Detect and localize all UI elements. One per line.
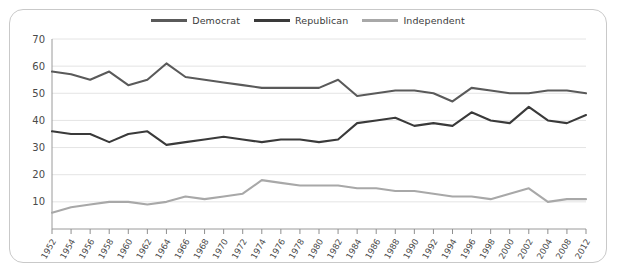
x-tick-label: 1954 xyxy=(58,237,77,261)
x-tick-label: 1990 xyxy=(401,237,420,261)
gridlines xyxy=(52,39,586,202)
x-tick-label: 1952 xyxy=(39,237,58,261)
x-axis-tick-labels: 1952195419561958196019621964196619681970… xyxy=(39,237,592,261)
x-tick-label: 2000 xyxy=(496,237,515,261)
series-line-republican xyxy=(52,107,586,145)
y-tick-label: 60 xyxy=(32,61,45,72)
x-tick-label: 1984 xyxy=(344,237,363,261)
x-tick-label: 1994 xyxy=(439,237,458,261)
x-tick-label: 1978 xyxy=(287,237,306,261)
plot-area: 10203040506070 1952195419561958196019621… xyxy=(10,10,608,264)
x-tick-label: 1974 xyxy=(249,237,268,261)
y-tick-label: 30 xyxy=(32,142,45,153)
chart-svg: 10203040506070 1952195419561958196019621… xyxy=(10,10,608,264)
x-tick-label: 1982 xyxy=(325,237,344,261)
x-tick-label: 1956 xyxy=(77,237,96,261)
y-tick-label: 70 xyxy=(32,34,45,45)
x-axis-tickmarks xyxy=(52,229,586,234)
x-tick-label: 1970 xyxy=(210,237,229,261)
x-tick-label: 2008 xyxy=(554,237,573,261)
series-line-democrat xyxy=(52,63,586,101)
y-tick-label: 10 xyxy=(32,196,45,207)
x-tick-label: 1996 xyxy=(458,237,477,261)
x-tick-label: 1960 xyxy=(115,237,134,261)
x-tick-label: 1976 xyxy=(268,237,287,261)
x-tick-label: 1988 xyxy=(382,237,401,261)
y-tick-label: 40 xyxy=(32,115,45,126)
x-tick-label: 2012 xyxy=(573,237,592,261)
y-tick-label: 20 xyxy=(32,169,45,180)
x-tick-label: 1964 xyxy=(153,237,172,261)
x-tick-label: 1986 xyxy=(363,237,382,261)
chart-card: Democrat Republican Independent 10203040… xyxy=(9,9,607,263)
x-tick-label: 1992 xyxy=(420,237,439,261)
x-tick-label: 1980 xyxy=(306,237,325,261)
data-series-group xyxy=(52,63,586,212)
x-tick-label: 2002 xyxy=(516,237,535,261)
series-line-independent xyxy=(52,180,586,213)
x-tick-label: 1998 xyxy=(477,237,496,261)
y-axis-tick-labels: 10203040506070 xyxy=(32,34,45,208)
x-tick-label: 2004 xyxy=(535,237,554,261)
x-tick-label: 1972 xyxy=(229,237,248,261)
y-tick-label: 50 xyxy=(32,88,45,99)
x-tick-label: 1962 xyxy=(134,237,153,261)
x-tick-label: 1966 xyxy=(172,237,191,261)
x-tick-label: 1968 xyxy=(191,237,210,261)
x-tick-label: 1958 xyxy=(96,237,115,261)
